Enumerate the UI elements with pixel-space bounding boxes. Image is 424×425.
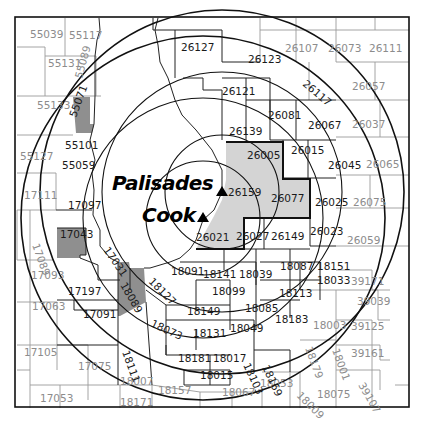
county-label-18001: 18001 <box>330 347 353 382</box>
county-label-26023: 26023 <box>310 225 343 237</box>
palisades-label: Palisades <box>112 171 214 195</box>
county-label-18179: 18179 <box>303 345 326 380</box>
county-label-18113: 18113 <box>279 287 312 299</box>
county-label-18157: 18157 <box>158 384 191 396</box>
county-label-26149: 26149 <box>271 230 304 242</box>
county-label-26075: 26075 <box>353 196 386 208</box>
county-label-18151: 18151 <box>317 260 350 272</box>
county-label-18039: 18039 <box>239 268 272 280</box>
county-label-55089: 55089 <box>72 44 92 79</box>
county-label-17093: 17093 <box>31 269 64 281</box>
county-label-18087: 18087 <box>280 260 313 272</box>
site-markers: Palisades Cook <box>112 171 228 227</box>
county-label-26005: 26005 <box>247 149 280 161</box>
county-label-26015: 26015 <box>291 144 324 156</box>
county-label-18015: 18015 <box>200 369 233 381</box>
county-label-18003: 18003 <box>313 319 346 331</box>
county-label-26159: 26159 <box>228 186 261 198</box>
county-label-26025: 26025 <box>315 196 348 208</box>
county-label-39161: 39161 <box>351 347 384 359</box>
county-label-26037: 26037 <box>352 118 385 130</box>
county-label-18183: 18183 <box>275 313 308 325</box>
county-label-18049: 18049 <box>230 322 263 334</box>
county-label-17053: 17053 <box>40 392 73 404</box>
county-label-18085: 18085 <box>245 302 278 314</box>
county-label-39039: 39039 <box>357 295 390 307</box>
county-label-26067: 26067 <box>308 119 341 131</box>
county-label-39171: 39171 <box>351 275 384 287</box>
county-label-17105: 17105 <box>24 346 57 358</box>
county-label-26027: 26027 <box>236 230 269 242</box>
county-label-55127: 55127 <box>20 150 53 162</box>
county-label-26107: 26107 <box>285 42 318 54</box>
county-label-26081: 26081 <box>268 109 301 121</box>
county-label-18017: 18017 <box>213 352 246 364</box>
county-label-18091: 18091 <box>171 265 204 277</box>
county-label-26073: 26073 <box>328 42 361 54</box>
county-label-18073: 18073 <box>149 317 184 342</box>
county-label-55039: 55039 <box>30 28 63 40</box>
county-label-17031: 17031 <box>101 244 130 278</box>
county-label-18131: 18131 <box>193 327 226 339</box>
county-label-17075: 17075 <box>78 360 111 372</box>
county-label-17097: 17097 <box>68 199 101 211</box>
county-label-26059: 26059 <box>347 234 380 246</box>
county-label-26057: 26057 <box>352 80 385 92</box>
county-label-18181: 18181 <box>178 352 211 364</box>
county-label-55117: 55117 <box>69 29 102 41</box>
county-label-55133: 55133 <box>37 99 70 111</box>
county-label-18141: 18141 <box>203 268 236 280</box>
county-label-18067: 18067 <box>222 386 255 398</box>
county-label-26065: 26065 <box>366 158 399 170</box>
county-label-18149: 18149 <box>187 305 220 317</box>
county-label-26127: 26127 <box>181 41 214 53</box>
county-label-26045: 26045 <box>328 159 361 171</box>
radius-map: 5503955117551315508955133551271711117089… <box>0 0 424 425</box>
county-label-26121: 26121 <box>222 85 255 97</box>
county-label-55101: 55101 <box>65 139 98 151</box>
county-label-26021: 26021 <box>196 231 229 243</box>
county-label-18033: 18033 <box>317 274 350 286</box>
county-label-17197: 17197 <box>68 285 101 297</box>
county-label-39125: 39125 <box>351 320 384 332</box>
county-label-26123: 26123 <box>248 53 281 65</box>
county-label-17063: 17063 <box>32 300 65 312</box>
county-label-17043: 17043 <box>60 228 93 240</box>
county-label-26117: 26117 <box>301 77 334 108</box>
cook-label: Cook <box>142 203 198 227</box>
county-label-18099: 18099 <box>212 285 245 297</box>
county-label-55059: 55059 <box>62 159 95 171</box>
county-label-17111: 17111 <box>24 189 57 201</box>
county-label-26111: 26111 <box>369 42 402 54</box>
county-label-26077: 26077 <box>271 192 304 204</box>
county-label-18075: 18075 <box>317 388 350 400</box>
county-label-39107: 39107 <box>356 380 383 415</box>
county-label-18171: 18171 <box>120 396 153 408</box>
county-label-26139: 26139 <box>229 125 262 137</box>
county-label-17091: 17091 <box>83 308 116 320</box>
cook-triangle-icon[interactable] <box>197 212 209 222</box>
